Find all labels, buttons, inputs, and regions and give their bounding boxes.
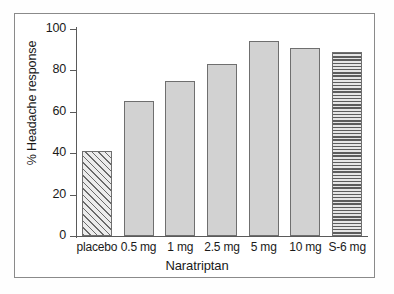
- y-tick-mark: [70, 153, 76, 154]
- figure: % Headache response Naratriptan 02040608…: [0, 0, 394, 294]
- y-axis-line: [76, 27, 77, 238]
- y-tick-mark: [70, 236, 76, 237]
- x-axis-title: Naratriptan: [0, 258, 394, 273]
- bar-10-mg: [290, 48, 320, 236]
- y-tick-label: 80: [34, 62, 66, 76]
- bar-s-6-mg: [332, 52, 362, 236]
- bar-5-mg: [249, 41, 279, 236]
- x-tick-label: S-6 mg: [322, 240, 372, 254]
- y-tick-mark: [70, 112, 76, 113]
- y-tick-label: 100: [34, 21, 66, 35]
- bar-placebo: [82, 151, 112, 236]
- bar-1-mg: [165, 81, 195, 236]
- x-axis-line: [76, 236, 368, 237]
- bar-0-5-mg: [124, 101, 154, 236]
- y-tick-mark: [70, 29, 76, 30]
- y-tick-label: 0: [34, 228, 66, 242]
- y-tick-label: 40: [34, 145, 66, 159]
- y-tick-label: 60: [34, 104, 66, 118]
- bar-2-5-mg: [207, 64, 237, 236]
- y-tick-label: 20: [34, 187, 66, 201]
- y-tick-mark: [70, 70, 76, 71]
- y-tick-mark: [70, 195, 76, 196]
